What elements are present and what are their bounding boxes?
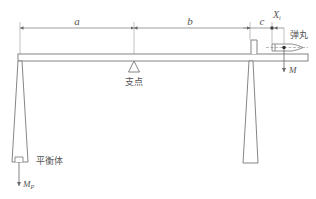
- xi-label: Xi: [272, 9, 281, 21]
- dimension-b-label: b: [187, 15, 193, 27]
- bullet: [266, 44, 308, 51]
- bullet-center: [282, 46, 286, 50]
- extension-lines: [20, 22, 272, 54]
- balance-beam: [18, 54, 308, 61]
- counterweight-label: 平衡体: [36, 155, 63, 166]
- left-pendulum: [12, 61, 28, 162]
- stop-tab: [251, 40, 257, 54]
- right-pendulum: [243, 61, 258, 163]
- xi-point: [270, 26, 274, 30]
- fulcrum-label: 支点: [125, 76, 143, 87]
- balance-diagram: a b c Xi 支点 弹丸 M 平衡体 MP: [0, 0, 316, 199]
- dimension-a-label: a: [74, 15, 80, 27]
- bullet-label: 弹丸: [290, 29, 308, 40]
- force-mp-label: MP: [22, 179, 35, 190]
- counterweight-box: [15, 157, 23, 162]
- dimension-c-label: c: [260, 15, 265, 27]
- force-m-label: M: [288, 65, 297, 75]
- fulcrum-triangle: [129, 61, 140, 72]
